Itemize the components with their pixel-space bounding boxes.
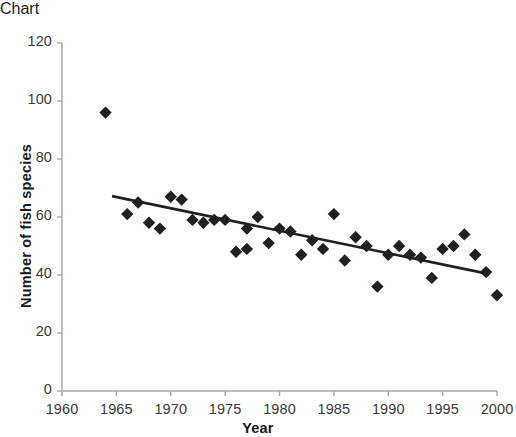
y-axis-ticks: [57, 43, 62, 391]
y-tick-label: 60: [36, 207, 52, 223]
x-tick-label: 1965: [94, 401, 138, 417]
data-point-marker: [99, 106, 111, 118]
data-point-marker: [393, 240, 405, 252]
data-point-marker: [469, 249, 481, 261]
x-tick-label: 1970: [149, 401, 193, 417]
x-axis-ticks: [62, 391, 497, 396]
data-point-marker: [165, 191, 177, 203]
x-tick-label: 1960: [40, 401, 84, 417]
x-tick-label: 1990: [366, 401, 410, 417]
x-axis-title: Year: [0, 420, 516, 436]
data-point-marker: [143, 217, 155, 229]
y-tick-label: 0: [44, 381, 52, 397]
plot-area: [0, 18, 516, 437]
data-point-marker: [241, 243, 253, 255]
data-point-marker: [426, 272, 438, 284]
y-tick-label: 100: [28, 91, 53, 107]
scatter-chart: 020406080100120 196019651970197519801985…: [0, 18, 516, 437]
data-point-marker: [132, 196, 144, 208]
data-point-marker: [186, 214, 198, 226]
data-point-marker: [175, 193, 187, 205]
x-tick-label: 2000: [475, 401, 516, 417]
data-point-marker: [447, 240, 459, 252]
data-point-marker: [295, 249, 307, 261]
y-axis-title: Number of fish species: [18, 144, 34, 308]
trend-line: [112, 196, 489, 274]
data-point-marker: [230, 246, 242, 258]
x-tick-label: 1995: [421, 401, 465, 417]
y-tick-label: 120: [28, 33, 53, 49]
data-point-marker: [154, 222, 166, 234]
data-point-marker: [219, 214, 231, 226]
data-point-marker: [262, 237, 274, 249]
data-point-marker: [121, 208, 133, 220]
y-tick-label: 20: [36, 323, 52, 339]
data-point-marker: [252, 211, 264, 223]
data-point-marker: [491, 289, 503, 301]
regression-line: [112, 196, 489, 274]
data-point-marker: [436, 243, 448, 255]
data-point-marker: [197, 217, 209, 229]
data-point-marker: [371, 280, 383, 292]
y-tick-label: 80: [36, 149, 52, 165]
data-point-marker: [328, 208, 340, 220]
data-point-marker: [317, 243, 329, 255]
x-tick-label: 1985: [312, 401, 356, 417]
data-point-marker: [458, 228, 470, 240]
data-point-marker: [284, 225, 296, 237]
x-tick-label: 1975: [203, 401, 247, 417]
x-tick-label: 1980: [258, 401, 302, 417]
y-tick-label: 40: [36, 265, 52, 281]
data-points: [99, 106, 503, 301]
data-point-marker: [382, 249, 394, 261]
data-point-marker: [349, 231, 361, 243]
data-point-marker: [339, 254, 351, 266]
data-point-marker: [480, 266, 492, 278]
